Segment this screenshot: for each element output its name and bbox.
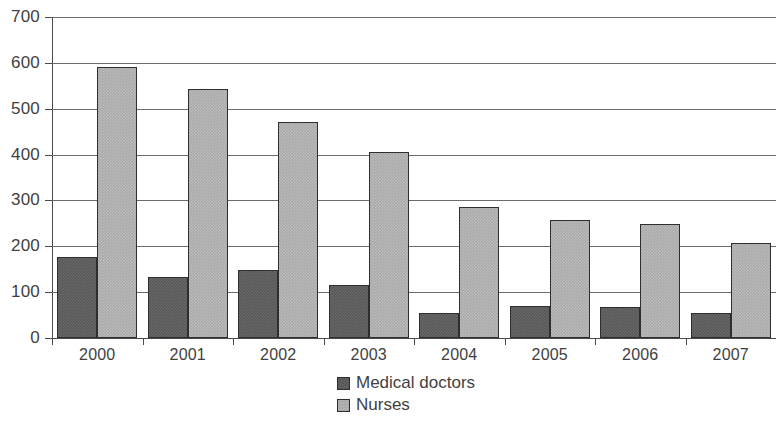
bar-2001-nurses (188, 89, 228, 338)
bar-2002-nurses (278, 122, 318, 338)
x-axis-tick (414, 338, 415, 345)
bar-2005-nurses (550, 220, 590, 338)
y-axis-tick-label: 100 (0, 283, 40, 300)
gridline (52, 109, 776, 110)
gridline (52, 155, 776, 156)
bar-2004-medical-doctors (419, 313, 459, 338)
chart-legend: Medical doctorsNurses (337, 372, 475, 416)
legend-item-medical-doctors: Medical doctors (337, 372, 475, 394)
bar-2002-medical-doctors (238, 270, 278, 338)
x-axis-tick (233, 338, 234, 345)
legend-item-nurses: Nurses (337, 394, 475, 416)
x-axis-tick (52, 338, 53, 345)
bar-chart: 0100200300400500600700 20002001200220032… (0, 0, 776, 434)
y-axis-tick-label: 200 (0, 237, 40, 254)
bar-2007-nurses (731, 243, 771, 338)
legend-label: Medical doctors (356, 374, 475, 392)
bar-2007-medical-doctors (691, 313, 731, 338)
x-axis-label-2002: 2002 (233, 346, 323, 364)
x-axis-tick (595, 338, 596, 345)
bar-2003-medical-doctors (329, 285, 369, 338)
y-axis-tick-label: 700 (0, 8, 40, 25)
x-axis-tick (686, 338, 687, 345)
bar-2001-medical-doctors (148, 277, 188, 338)
x-axis-label-2003: 2003 (324, 346, 414, 364)
y-axis-tick-label: 500 (0, 100, 40, 117)
bar-2000-medical-doctors (57, 257, 97, 338)
bar-2000-nurses (97, 67, 137, 338)
bar-2005-medical-doctors (510, 306, 550, 338)
gridline (52, 200, 776, 201)
x-axis-tick (143, 338, 144, 345)
bar-2004-nurses (459, 207, 499, 338)
y-axis-tick-label: 600 (0, 54, 40, 71)
x-axis-label-2000: 2000 (52, 346, 142, 364)
y-axis-tick-label: 0 (0, 329, 40, 346)
x-axis-label-2007: 2007 (686, 346, 776, 364)
x-axis-tick (324, 338, 325, 345)
y-axis-tick-label: 400 (0, 146, 40, 163)
x-axis-label-2006: 2006 (595, 346, 685, 364)
legend-swatch-icon (337, 399, 350, 412)
bar-2003-nurses (369, 152, 409, 338)
x-axis-tick (505, 338, 506, 345)
x-axis-label-2005: 2005 (505, 346, 595, 364)
bar-2006-nurses (640, 224, 680, 338)
x-axis-label-2004: 2004 (414, 346, 504, 364)
plot-area (52, 17, 776, 338)
x-axis-label-2001: 2001 (143, 346, 233, 364)
gridline (52, 63, 776, 64)
bar-2006-medical-doctors (600, 307, 640, 338)
gridline (52, 17, 776, 18)
y-axis-tick-label: 300 (0, 191, 40, 208)
legend-label: Nurses (356, 396, 410, 414)
legend-swatch-icon (337, 377, 350, 390)
